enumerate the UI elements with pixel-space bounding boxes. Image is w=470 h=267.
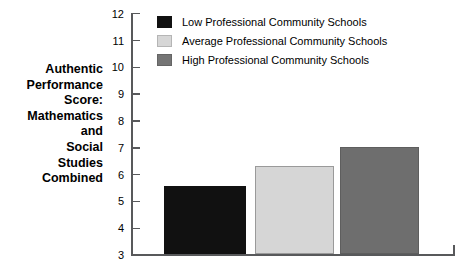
bar [255, 166, 334, 255]
y-tick-mark [133, 254, 140, 255]
legend-item-label: High Professional Community Schools [182, 54, 369, 66]
y-tick-label: 8 [118, 115, 124, 126]
y-tick-mark [133, 201, 140, 202]
y-axis-title: Authentic Performance Score: Mathematics… [0, 62, 103, 187]
x-axis-end-tick [453, 245, 455, 255]
y-tick-mark [133, 120, 140, 121]
y-tick-mark [133, 40, 140, 41]
legend-item[interactable]: Average Professional Community Schools [157, 31, 387, 50]
y-tick-label: 12 [112, 8, 124, 19]
y-tick-label: 5 [118, 196, 124, 207]
legend-item[interactable]: High Professional Community Schools [157, 50, 387, 69]
y-tick-label: 11 [113, 35, 124, 46]
legend-item-label: Low Professional Community Schools [182, 16, 367, 28]
y-tick-mark [133, 174, 140, 175]
y-tick-label: 10 [112, 62, 124, 73]
y-tick-mark [133, 147, 140, 148]
legend-swatch-icon [157, 54, 172, 66]
legend-item-label: Average Professional Community Schools [182, 35, 387, 47]
y-tick-label: 6 [118, 169, 124, 180]
y-tick-label: 3 [118, 250, 124, 261]
y-tick-mark [133, 93, 140, 94]
legend-swatch-icon [157, 35, 172, 47]
y-tick-mark [133, 67, 140, 68]
y-tick-label: 9 [118, 89, 124, 100]
bar [340, 147, 419, 254]
bar-chart-figure: Authentic Performance Score: Mathematics… [0, 0, 470, 267]
legend-swatch-icon [157, 16, 172, 28]
y-tick-mark [133, 228, 140, 229]
x-axis-baseline [131, 254, 455, 256]
chart-legend: Low Professional Community SchoolsAverag… [157, 12, 387, 69]
y-tick-mark [133, 13, 140, 14]
y-tick-label: 4 [118, 223, 124, 234]
y-axis-line [131, 13, 133, 256]
bar [164, 186, 246, 254]
legend-item[interactable]: Low Professional Community Schools [157, 12, 387, 31]
y-tick-label: 7 [118, 142, 124, 153]
